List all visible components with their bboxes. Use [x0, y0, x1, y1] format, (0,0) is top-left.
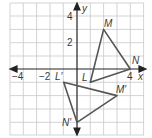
vertex-label-M-prime: M′ [116, 84, 127, 95]
x-tick-label: −2 [39, 71, 51, 82]
vertex-label-N-prime: N′ [62, 117, 72, 128]
x-axis-label: x [137, 71, 144, 82]
vertex-label-N: N [132, 55, 140, 66]
coordinate-plane: −4 −2 4 x 4 2 y L M N L′ M′ N′ [0, 0, 152, 138]
y-tick-label: 2 [67, 37, 73, 48]
axes [10, 3, 146, 135]
vertex-label-L: L [82, 72, 88, 83]
y-tick-label: 4 [67, 11, 73, 22]
y-axis-arrow-down [74, 128, 80, 135]
vertex-label-L-prime: L′ [55, 71, 64, 82]
vertex-label-M: M [104, 18, 113, 29]
x-tick-label: 4 [127, 71, 133, 82]
x-tick-label: −4 [12, 71, 24, 82]
y-axis-arrow-up [74, 3, 80, 10]
y-axis-label: y [81, 3, 88, 14]
